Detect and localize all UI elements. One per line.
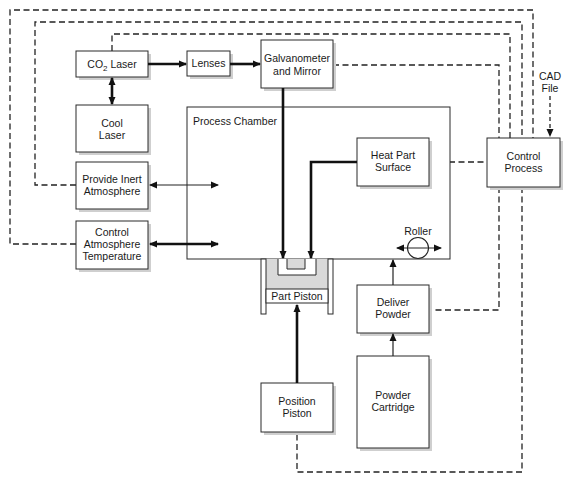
control-atmosphere-label: Control xyxy=(95,226,129,238)
powder-cartridge-label: Powder xyxy=(375,389,411,401)
galvanometer-label-2: and Mirror xyxy=(273,65,321,77)
block-position-piston: Position Piston xyxy=(261,383,336,435)
position-piston-label-2: Piston xyxy=(282,407,311,419)
block-deliver-powder: Deliver Powder xyxy=(357,285,432,336)
provide-inert-label-2: Atmosphere xyxy=(84,185,141,197)
block-powder-cartridge: Powder Cartridge xyxy=(357,356,432,451)
block-galvanometer: Galvanometer and Mirror xyxy=(261,40,336,91)
galvanometer-label: Galvanometer xyxy=(264,52,330,64)
lenses-label: Lenses xyxy=(192,57,226,69)
heat-part-label-2: Surface xyxy=(375,161,411,173)
block-lenses: Lenses xyxy=(187,51,233,79)
block-co2-laser: CO2 Laser xyxy=(76,51,151,80)
cad-file-input: CAD File xyxy=(539,70,562,94)
deliver-powder-label-2: Powder xyxy=(375,308,411,320)
cool-laser-label-2: Laser xyxy=(99,129,126,141)
control-process-label: Control xyxy=(507,150,541,162)
part-piston-label: Part Piston xyxy=(271,290,323,302)
process-chamber-label: Process Chamber xyxy=(193,115,278,127)
cad-file-label: CAD xyxy=(539,70,562,82)
cool-laser-label: Cool xyxy=(101,117,123,129)
deliver-powder-label: Deliver xyxy=(377,296,410,308)
block-provide-inert-atmosphere: Provide Inert Atmosphere xyxy=(76,162,151,212)
heat-part-label: Heat Part xyxy=(371,149,415,161)
powder-cartridge-label-2: Cartridge xyxy=(371,401,414,413)
co2-laser-label: CO xyxy=(87,58,103,70)
block-control-atmosphere-temperature: Control Atmosphere Temperature xyxy=(76,221,151,272)
roller-label: Roller xyxy=(404,225,432,237)
block-heat-part-surface: Heat Part Surface xyxy=(357,138,432,189)
position-piston-label: Position xyxy=(278,395,316,407)
block-cool-laser: Cool Laser xyxy=(76,105,151,155)
provide-inert-label: Provide Inert xyxy=(82,173,142,185)
control-atmosphere-label-3: Temperature xyxy=(83,250,142,262)
control-atmosphere-label-2: Atmosphere xyxy=(84,238,141,250)
block-control-process: Control Process xyxy=(487,138,563,190)
cad-file-label-2: File xyxy=(542,82,559,94)
control-process-label-2: Process xyxy=(505,162,543,174)
sls-process-diagram: Process Chamber Part Piston CO2 Laser Le… xyxy=(0,0,570,480)
